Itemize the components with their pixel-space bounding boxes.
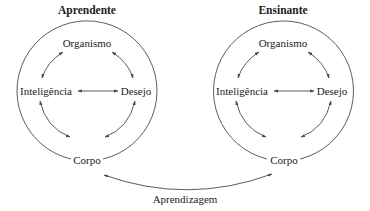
aprendizagem-label: Aprendizagem <box>152 194 219 205</box>
aprendente-node-inteligencia: Inteligência <box>19 86 73 97</box>
arrow-organismo-inteligencia <box>42 52 63 78</box>
ensinante-node-desejo: Desejo <box>316 86 349 97</box>
arrow-organismo-desejo <box>112 52 133 78</box>
aprendente-title: Aprendente <box>57 5 117 17</box>
aprendente-node-corpo: Corpo <box>72 155 102 166</box>
arrow-organismo-desejo-2 <box>308 52 329 78</box>
arrow-inteligencia-corpo-2 <box>236 101 266 137</box>
ensinante-node-inteligencia: Inteligência <box>215 86 269 97</box>
aprendente-node-desejo: Desejo <box>120 86 153 97</box>
ensinante-node-corpo: Corpo <box>269 155 299 166</box>
arrow-inteligencia-corpo <box>40 101 70 137</box>
arrow-organismo-inteligencia-2 <box>238 52 259 78</box>
diagram-lines <box>0 0 370 211</box>
aprendente-node-organismo: Organismo <box>62 38 113 49</box>
arrow-desejo-corpo <box>105 101 135 137</box>
ensinante-node-organismo: Organismo <box>258 38 309 49</box>
ensinante-title: Ensinante <box>257 5 308 17</box>
diagram-canvas: Aprendente Organismo Inteligência Desejo… <box>0 0 370 211</box>
arrow-desejo-corpo-2 <box>301 101 331 137</box>
arrow-aprendizagem <box>104 174 272 190</box>
